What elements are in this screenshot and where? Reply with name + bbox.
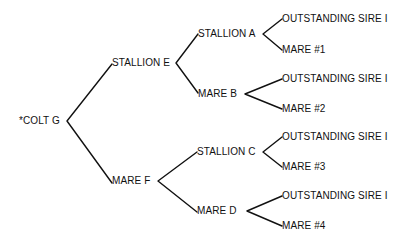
node-stallion-e: STALLION E bbox=[112, 58, 170, 68]
connector-mare-d bbox=[247, 196, 282, 226]
node-outstanding-sire-1d: OUTSTANDING SIRE I bbox=[282, 191, 388, 201]
node-mare-f: MARE F bbox=[112, 176, 150, 186]
node-mare-4: MARE #4 bbox=[282, 221, 326, 231]
node-mare-2: MARE #2 bbox=[282, 104, 326, 114]
node-outstanding-sire-1b: OUTSTANDING SIRE I bbox=[282, 74, 388, 84]
connector-mare-b bbox=[245, 79, 282, 109]
node-mare-3: MARE #3 bbox=[282, 162, 326, 172]
connector-colt-g bbox=[67, 64, 112, 183]
pedigree-diagram: *COLT G STALLION E MARE F STALLION A MAR… bbox=[0, 0, 411, 245]
node-stallion-c: STALLION C bbox=[197, 147, 256, 157]
connector-stallion-c bbox=[263, 137, 282, 167]
node-stallion-a: STALLION A bbox=[198, 29, 256, 39]
connector-stallion-e bbox=[176, 34, 198, 93]
node-outstanding-sire-1c: OUTSTANDING SIRE I bbox=[282, 132, 388, 142]
node-outstanding-sire-1a: OUTSTANDING SIRE I bbox=[282, 14, 388, 24]
node-colt-g: *COLT G bbox=[19, 116, 60, 126]
connector-mare-f bbox=[158, 152, 197, 212]
node-mare-b: MARE B bbox=[198, 89, 237, 99]
node-mare-1: MARE #1 bbox=[282, 45, 326, 55]
connector-stallion-a bbox=[263, 19, 282, 50]
node-mare-d: MARE D bbox=[197, 206, 237, 216]
